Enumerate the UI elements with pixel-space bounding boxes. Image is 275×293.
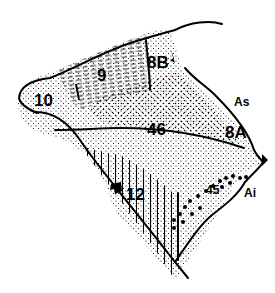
label-area-46: 46	[147, 121, 166, 138]
label-area-9: 9	[97, 67, 106, 84]
label-area-10: 10	[34, 92, 53, 109]
prefrontal-area-map	[0, 0, 275, 293]
label-area-12: 12	[126, 186, 145, 203]
marker-arcuate-triangle-icon	[262, 154, 268, 166]
label-area-8b: 8B	[147, 54, 169, 71]
label-area-8a: 8A	[225, 124, 247, 141]
label-sulcus-as: As	[234, 96, 249, 108]
label-area-45: 45	[206, 184, 219, 196]
label-sulcus-ai: Ai	[244, 187, 256, 199]
